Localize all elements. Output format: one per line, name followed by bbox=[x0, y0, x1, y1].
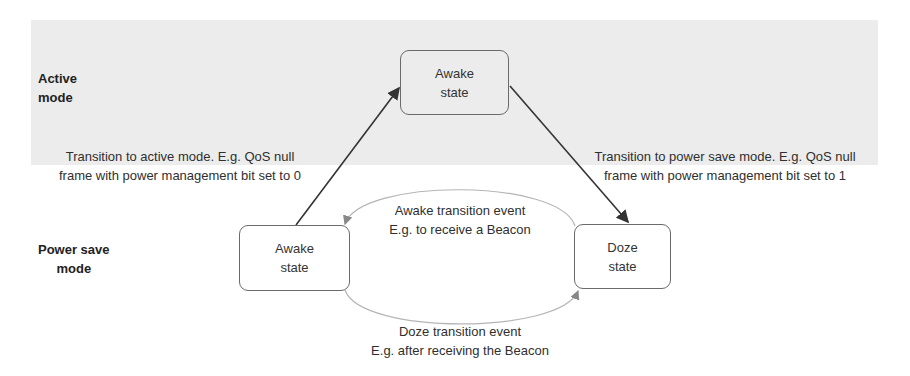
power-save-mode-label: Power save mode bbox=[38, 240, 110, 278]
to-power-save-caption: Transition to power save mode. E.g. QoS … bbox=[580, 147, 870, 185]
doze-state: Doze state bbox=[574, 224, 671, 289]
power-save-awake-state: Awake state bbox=[239, 225, 350, 291]
to-active-caption: Transition to active mode. E.g. QoS null… bbox=[40, 147, 320, 185]
arrow-doze-event bbox=[345, 290, 578, 324]
doze-event-caption: Doze transition event E.g. after receivi… bbox=[350, 322, 570, 360]
active-awake-state: Awake state bbox=[400, 50, 509, 115]
awake-event-caption: Awake transition event E.g. to receive a… bbox=[360, 201, 560, 239]
active-mode-label: Active mode bbox=[38, 69, 77, 107]
